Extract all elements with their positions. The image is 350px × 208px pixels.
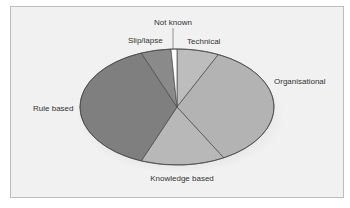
label-knowledge-based: Knowledge based (150, 174, 214, 183)
label-technical: Technical (187, 37, 221, 46)
label-organisational: Organisational (274, 77, 326, 86)
label-not-known: Not known (154, 18, 192, 27)
label-rule-based: Rule based (33, 104, 73, 113)
label-slip-lapse: Slip/lapse (128, 36, 163, 45)
pie-chart: Not known Slip/lapse Technical Organisat… (0, 0, 350, 208)
